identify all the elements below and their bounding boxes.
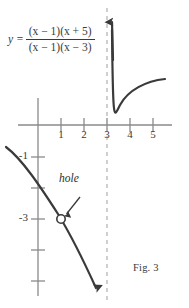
- hole-marker: [57, 215, 65, 223]
- curve-right-branch-arrow: [112, 22, 113, 60]
- hole-pointer-arrow: [67, 197, 81, 214]
- y-tick-label-neg1: -1: [10, 149, 28, 161]
- x-tick-label-3: 3: [100, 128, 114, 140]
- plot-canvas: [0, 0, 189, 308]
- x-tick-label-2: 2: [77, 128, 91, 140]
- curve-right-branch: [112, 30, 165, 113]
- x-tick-label-5: 5: [146, 128, 160, 140]
- hole-annotation-label: hole: [59, 172, 79, 184]
- y-tick-label-neg3: -3: [10, 211, 28, 223]
- x-tick-label-4: 4: [123, 128, 137, 140]
- figure-container: y = (x − 1)(x + 5) (x − 1)(x − 3): [0, 0, 189, 308]
- x-tick-label-1: 1: [54, 128, 68, 140]
- figure-caption: Fig. 3: [133, 262, 159, 273]
